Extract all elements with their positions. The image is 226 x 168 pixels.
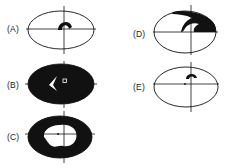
- panel-d-scotoma: [172, 11, 216, 32]
- panel-d-field: [153, 5, 218, 55]
- panel-b-field: [25, 61, 97, 108]
- panel-e-ellipse: [154, 67, 218, 107]
- panel-b-ellipse: [28, 64, 94, 104]
- panel-a-field: [26, 6, 96, 54]
- visual-field-figure: (A) (B) (C) (D) (E): [0, 0, 226, 168]
- panel-label-a: (A): [7, 24, 19, 34]
- panel-e-scotoma: [186, 74, 197, 79]
- panel-label-e: (E): [133, 82, 145, 92]
- panel-label-b: (B): [7, 80, 19, 90]
- panel-label-d: (D): [133, 29, 145, 39]
- panel-e-field: [153, 62, 219, 112]
- panel-e-fixation-dot: [184, 83, 186, 85]
- panel-c-field: [25, 111, 95, 163]
- panel-c-central-island: [44, 125, 77, 147]
- panel-c-fixation-dot: [57, 133, 59, 135]
- panel-label-c: (C): [7, 132, 19, 142]
- visual-field-diagrams: [0, 0, 226, 168]
